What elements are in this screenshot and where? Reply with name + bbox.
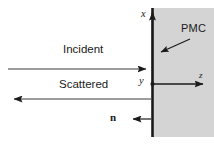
surface-normal-label: ^ n [110, 112, 214, 123]
pmc-scattering-diagram: Incident Scattered PMC x y z ^ n [0, 0, 214, 148]
incident-label: Incident [63, 44, 103, 56]
z-axis-label: z [199, 71, 203, 80]
normal-letter: n [110, 111, 116, 123]
pmc-label: PMC [181, 23, 206, 34]
x-axis-label: x [141, 9, 146, 20]
origin-point [150, 82, 154, 86]
scattered-label: Scattered [59, 79, 108, 91]
y-axis-label: y [139, 76, 144, 87]
